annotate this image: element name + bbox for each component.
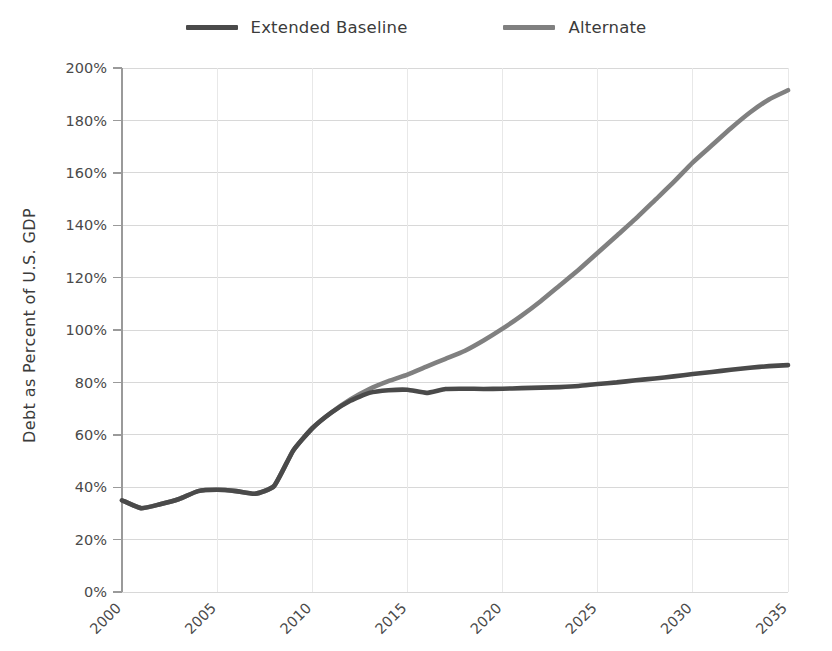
axis-tick-marks xyxy=(113,68,122,592)
x-tick-label: 2015 xyxy=(372,600,409,637)
x-tick-label: 2010 xyxy=(277,600,314,637)
y-tick-label: 180% xyxy=(66,113,107,129)
x-tick-label: 2020 xyxy=(467,600,504,637)
x-tick-label: 2035 xyxy=(753,600,790,637)
x-tick-label: 2025 xyxy=(562,600,599,637)
y-tick-label: 40% xyxy=(75,479,107,495)
chart-figure: Extended Baseline Alternate Debt as Perc… xyxy=(0,0,832,651)
x-tick-label: 2000 xyxy=(87,600,124,637)
y-tick-label: 80% xyxy=(75,375,107,391)
y-tick-label: 60% xyxy=(75,427,107,443)
data-series-group xyxy=(122,90,788,508)
y-axis-tick-labels: 200%180%160%140%120%100%80%60%40%20%0% xyxy=(66,60,107,600)
y-tick-label: 100% xyxy=(66,322,107,338)
horizontal-gridlines xyxy=(122,68,788,592)
x-tick-label: 2005 xyxy=(182,600,219,637)
y-tick-label: 120% xyxy=(66,270,107,286)
x-tick-label: 2030 xyxy=(658,600,695,637)
y-tick-label: 160% xyxy=(66,165,107,181)
plot-area: 200%180%160%140%120%100%80%60%40%20%0% 2… xyxy=(0,0,832,651)
y-tick-label: 200% xyxy=(66,60,107,76)
x-axis-tick-labels: 20002005201020152020202520302035 xyxy=(87,600,790,637)
chart-svg: 200%180%160%140%120%100%80%60%40%20%0% 2… xyxy=(0,0,832,651)
series-line-alternate xyxy=(122,90,788,508)
y-tick-label: 0% xyxy=(84,584,107,600)
y-tick-label: 140% xyxy=(66,217,107,233)
y-tick-label: 20% xyxy=(75,532,107,548)
